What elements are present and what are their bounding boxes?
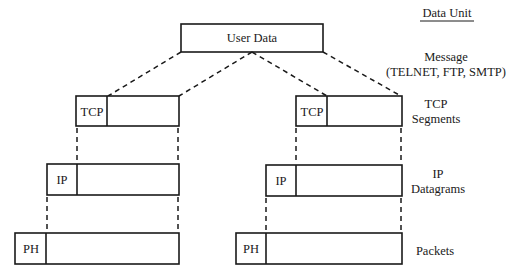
encapsulation-diagram: Data Unit User Data Message (TELNET, FTP… — [0, 0, 506, 276]
tcp-layer-label: TCP — [425, 97, 448, 111]
packet-right — [236, 233, 402, 264]
split-line — [108, 52, 181, 96]
ip-layer-label: IP — [432, 167, 443, 181]
message-label: Message — [424, 50, 468, 64]
packet-header-label: PH — [23, 242, 39, 256]
tcp-header-label: TCP — [81, 105, 104, 119]
segments-label: Segments — [412, 112, 461, 126]
packet-header-label: PH — [243, 242, 259, 256]
user-data-label: User Data — [227, 31, 278, 45]
tcp-header-label: TCP — [301, 105, 324, 119]
packet-left — [15, 233, 179, 264]
split-line — [252, 52, 327, 96]
data-unit-title: Data Unit — [423, 6, 472, 20]
ip-header-label: IP — [275, 174, 286, 188]
message-protocols-label: (TELNET, FTP, SMTP) — [386, 65, 506, 79]
packets-label: Packets — [416, 244, 454, 258]
split-line — [179, 52, 252, 96]
ip-header-label: IP — [56, 173, 67, 187]
datagrams-label: Datagrams — [411, 182, 465, 196]
